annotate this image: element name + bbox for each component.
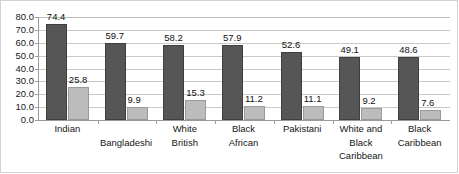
bar-primary bbox=[281, 52, 302, 120]
y-tick-label: 30.0 bbox=[0, 76, 34, 86]
x-category-label: WhiteBritish bbox=[155, 122, 214, 149]
bar-secondary bbox=[68, 87, 89, 120]
bar-group: 49.19.2 bbox=[333, 17, 392, 120]
bar-group: 74.425.8 bbox=[39, 17, 98, 120]
y-tick-label: 80.0 bbox=[0, 12, 34, 22]
bar-group: 59.79.9 bbox=[98, 17, 157, 120]
bar-value-label: 58.2 bbox=[164, 32, 183, 43]
x-category-label-line: Pakistani bbox=[273, 122, 332, 136]
x-category-label-line: White and bbox=[332, 122, 391, 136]
bar-primary bbox=[398, 57, 419, 120]
bar-value-label: 9.9 bbox=[128, 94, 141, 105]
bar-value-label: 74.4 bbox=[47, 11, 66, 22]
bar-secondary bbox=[420, 110, 441, 120]
bar-value-label: 7.6 bbox=[421, 97, 434, 108]
y-tick-mark bbox=[35, 120, 39, 121]
x-category-label-line: British bbox=[155, 136, 214, 150]
bar-secondary bbox=[185, 100, 206, 120]
y-tick-label: 50.0 bbox=[0, 51, 34, 61]
bar-value-label: 57.9 bbox=[223, 32, 242, 43]
bar-value-label: 49.1 bbox=[340, 44, 359, 55]
x-category-label-line: African bbox=[214, 136, 273, 150]
y-tick-label: 70.0 bbox=[0, 25, 34, 35]
y-tick-label: 20.0 bbox=[0, 89, 34, 99]
x-category-label-line: Black bbox=[332, 136, 391, 150]
x-category-label: BlackAfrican bbox=[214, 122, 273, 149]
x-category-label-line: Caribbean bbox=[390, 136, 449, 150]
x-category-label: BlackCaribbean bbox=[390, 122, 449, 149]
bar-value-label: 52.6 bbox=[282, 39, 301, 50]
bar-value-label: 11.2 bbox=[245, 93, 263, 104]
x-category-label: Bangladeshi bbox=[97, 136, 156, 150]
x-axis-category-labels: IndianBangladeshiWhiteBritishBlackAfrica… bbox=[38, 122, 449, 174]
bar-primary bbox=[46, 24, 67, 120]
y-tick-label: 40.0 bbox=[0, 64, 34, 74]
bar-primary bbox=[163, 45, 184, 120]
bar-value-label: 15.3 bbox=[186, 87, 205, 98]
x-category-label-line: Indian bbox=[38, 122, 97, 136]
bar-secondary bbox=[127, 107, 148, 120]
x-category-label: White andBlackCaribbean bbox=[332, 122, 391, 163]
bar-secondary bbox=[244, 106, 265, 120]
bar-value-label: 48.6 bbox=[399, 44, 418, 55]
bar-value-label: 9.2 bbox=[362, 95, 375, 106]
x-category-label-line: Black bbox=[390, 122, 449, 136]
x-category-label-line: Bangladeshi bbox=[97, 136, 156, 150]
y-tick-label: 60.0 bbox=[0, 38, 34, 48]
bar-primary bbox=[105, 43, 126, 120]
y-tick-label: 10.0 bbox=[0, 102, 34, 112]
bar-value-label: 11.1 bbox=[304, 93, 322, 104]
bar-chart: 80.070.060.050.040.030.020.010.00.0 74.4… bbox=[0, 0, 459, 174]
bar-value-label: 25.8 bbox=[69, 74, 88, 85]
x-category-label-line: Caribbean bbox=[332, 149, 391, 163]
bar-group: 57.911.2 bbox=[215, 17, 274, 120]
y-axis: 80.070.060.050.040.030.020.010.00.0 bbox=[0, 12, 34, 120]
bar-group: 58.215.3 bbox=[156, 17, 215, 120]
x-category-label: Indian bbox=[38, 122, 97, 136]
bar-primary bbox=[339, 57, 360, 120]
plot-area: 74.425.859.79.958.215.357.911.252.611.14… bbox=[38, 17, 450, 121]
bar-secondary bbox=[303, 106, 324, 120]
bar-group: 52.611.1 bbox=[274, 17, 333, 120]
bar-primary bbox=[222, 45, 243, 120]
x-category-label-line: Black bbox=[214, 122, 273, 136]
bar-group: 48.67.6 bbox=[391, 17, 450, 120]
x-category-label-line: White bbox=[155, 122, 214, 136]
bar-value-label: 59.7 bbox=[106, 30, 125, 41]
y-tick-label: 0.0 bbox=[0, 115, 34, 125]
x-category-label: Pakistani bbox=[273, 122, 332, 136]
bar-secondary bbox=[361, 108, 382, 120]
